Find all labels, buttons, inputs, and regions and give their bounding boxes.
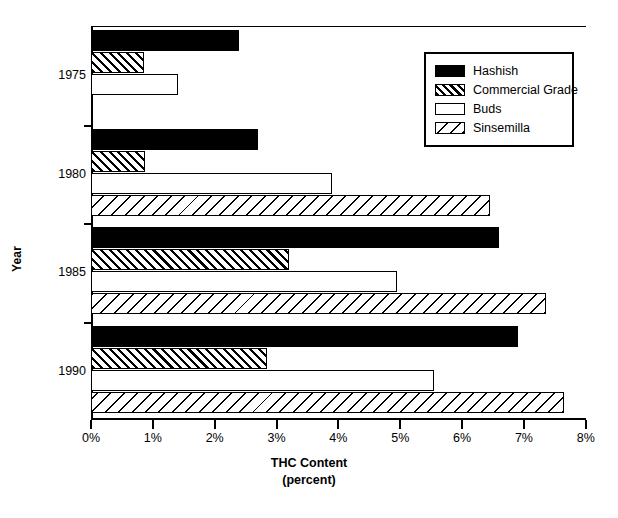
bar-1980-buds bbox=[91, 173, 332, 194]
x-tick-label-6%: 6% bbox=[439, 431, 485, 445]
thc-content-bar-chart: Year 1975198019851990 0%1%2%3%4%5%6%7%8%… bbox=[0, 0, 618, 518]
legend-item-sinsemilla: Sinsemilla bbox=[435, 118, 564, 137]
bar-1985-commercial-grade bbox=[91, 249, 289, 270]
x-tick-label-0%: 0% bbox=[68, 431, 114, 445]
bar-1985-buds bbox=[91, 271, 397, 292]
bar-1990-sinsemilla bbox=[91, 392, 564, 413]
x-axis-tick-mark bbox=[585, 420, 587, 429]
x-tick-label-4%: 4% bbox=[315, 431, 361, 445]
x-tick-label-7%: 7% bbox=[501, 431, 547, 445]
bar-1975-commercial-grade bbox=[91, 52, 144, 73]
y-axis-tick-mark bbox=[84, 322, 93, 324]
bar-1980-commercial-grade bbox=[91, 151, 145, 172]
legend-item-hashish: Hashish bbox=[435, 61, 564, 80]
legend: Hashish Commercial Grade Buds Sinsemilla bbox=[424, 52, 574, 147]
white-swatch-icon bbox=[435, 103, 465, 115]
x-axis-tick-mark bbox=[214, 420, 216, 429]
x-axis-title-line2: (percent) bbox=[0, 472, 618, 489]
bar-1975-buds bbox=[91, 74, 178, 95]
legend-item-commercial-grade: Commercial Grade bbox=[435, 80, 564, 99]
solid-black-swatch-icon bbox=[435, 65, 465, 77]
hatch-forward-swatch-icon bbox=[435, 84, 465, 96]
x-axis-title-line1: THC Content bbox=[0, 455, 618, 472]
legend-label: Hashish bbox=[473, 64, 518, 78]
x-tick-label-3%: 3% bbox=[254, 431, 300, 445]
bar-1975-hashish bbox=[91, 30, 239, 51]
x-tick-label-2%: 2% bbox=[192, 431, 238, 445]
bar-1990-hashish bbox=[91, 326, 518, 347]
legend-item-buds: Buds bbox=[435, 99, 564, 118]
bar-1985-sinsemilla bbox=[91, 293, 546, 314]
x-axis-tick-mark bbox=[90, 420, 92, 429]
legend-label: Commercial Grade bbox=[473, 83, 578, 97]
hatch-back-swatch-icon bbox=[435, 122, 465, 134]
x-axis-tick-mark bbox=[276, 420, 278, 429]
y-tick-label-1975: 1975 bbox=[20, 68, 86, 82]
legend-label: Sinsemilla bbox=[473, 121, 530, 135]
x-axis-tick-mark bbox=[152, 420, 154, 429]
x-axis-tick-mark bbox=[399, 420, 401, 429]
x-tick-label-1%: 1% bbox=[130, 431, 176, 445]
x-axis-tick-mark bbox=[337, 420, 339, 429]
y-tick-label-1990: 1990 bbox=[20, 364, 86, 378]
x-tick-label-8%: 8% bbox=[563, 431, 609, 445]
x-axis-tick-mark bbox=[523, 420, 525, 429]
y-axis-tick-labels: 1975198019851990 bbox=[16, 26, 86, 420]
y-axis-tick-mark bbox=[84, 223, 93, 225]
y-tick-label-1985: 1985 bbox=[20, 265, 86, 279]
bar-1980-sinsemilla bbox=[91, 195, 490, 216]
bar-1980-hashish bbox=[91, 129, 258, 150]
x-axis-title: THC Content (percent) bbox=[0, 455, 618, 489]
y-tick-label-1980: 1980 bbox=[20, 167, 86, 181]
bar-1990-commercial-grade bbox=[91, 348, 267, 369]
x-axis-tick-mark bbox=[461, 420, 463, 429]
legend-label: Buds bbox=[473, 102, 502, 116]
bar-1990-buds bbox=[91, 370, 434, 391]
x-tick-label-5%: 5% bbox=[377, 431, 423, 445]
y-axis-tick-mark bbox=[84, 125, 93, 127]
bar-1985-hashish bbox=[91, 227, 499, 248]
